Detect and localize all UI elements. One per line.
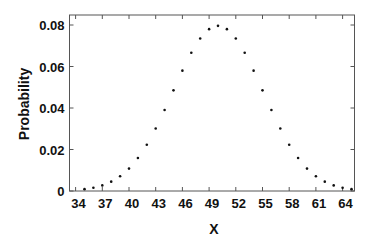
x-tick-label: 37 xyxy=(98,196,112,211)
y-tick-label: 0.02 xyxy=(39,143,64,158)
x-tick-label: 34 xyxy=(71,196,86,211)
x-tick-label: 58 xyxy=(285,196,299,211)
x-tick-label: 43 xyxy=(151,196,165,211)
y-tick-label: 0.04 xyxy=(39,101,65,116)
data-point xyxy=(154,127,157,130)
y-tick-label: 0 xyxy=(57,184,64,199)
data-point xyxy=(332,184,335,187)
x-tick-label: 40 xyxy=(125,196,139,211)
y-axis-ticks: 00.020.040.060.08 xyxy=(39,18,354,199)
y-tick-label: 0.06 xyxy=(39,60,64,75)
data-points xyxy=(83,25,353,191)
data-point xyxy=(270,109,273,112)
data-point xyxy=(279,127,282,130)
data-point xyxy=(199,37,202,40)
x-tick-label: 52 xyxy=(232,196,246,211)
x-tick-label: 64 xyxy=(338,196,353,211)
data-point xyxy=(243,52,246,55)
data-point xyxy=(110,180,113,183)
data-point xyxy=(288,143,291,146)
data-point xyxy=(163,109,166,112)
data-point xyxy=(146,143,149,146)
data-point xyxy=(137,157,140,160)
data-point xyxy=(83,188,86,191)
data-point xyxy=(297,157,300,160)
x-tick-label: 61 xyxy=(312,196,326,211)
data-point xyxy=(119,175,122,178)
plot-frame xyxy=(70,15,355,191)
data-point xyxy=(217,25,220,28)
data-point xyxy=(350,188,353,191)
data-point xyxy=(324,180,327,183)
data-point xyxy=(235,37,238,40)
data-point xyxy=(261,89,264,92)
x-tick-label: 49 xyxy=(205,196,219,211)
x-axis-title: X xyxy=(209,221,219,237)
data-point xyxy=(252,69,255,72)
y-axis-title: Probability xyxy=(16,68,32,141)
data-point xyxy=(172,89,175,92)
data-point xyxy=(208,28,211,31)
data-point xyxy=(226,28,229,31)
data-point xyxy=(92,186,95,189)
data-point xyxy=(190,52,193,55)
data-point xyxy=(128,167,131,170)
probability-scatter-chart: 00.020.040.060.08 3437404346495255586164… xyxy=(0,0,368,248)
x-axis-ticks: 3437404346495255586164 xyxy=(71,15,353,211)
data-point xyxy=(306,167,309,170)
data-point xyxy=(181,69,184,72)
data-point xyxy=(341,186,344,189)
x-tick-label: 46 xyxy=(178,196,192,211)
x-tick-label: 55 xyxy=(258,196,272,211)
y-tick-label: 0.08 xyxy=(39,18,64,33)
data-point xyxy=(101,184,104,187)
data-point xyxy=(315,175,318,178)
